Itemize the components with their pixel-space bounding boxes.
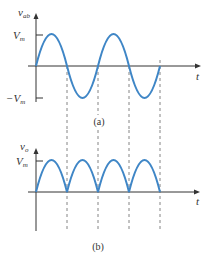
- chart-b-caption: (b): [92, 241, 104, 253]
- chart-a-caption: (a): [93, 116, 104, 128]
- chart-a-x-arrow-icon: [195, 64, 201, 69]
- chart-b-rectified-wave: [36, 160, 160, 192]
- chart-b-vm-label: Vm: [16, 155, 28, 169]
- chart-a: vab Vm −Vm t (a): [6, 6, 201, 130]
- chart-b: vo Vm t (b): [16, 130, 200, 253]
- rectifier-waveform-figure: vab Vm −Vm t (a) vo Vm t (b): [0, 0, 211, 257]
- chart-a-neg-vm-label: −Vm: [6, 92, 25, 106]
- svg-text:vab: vab: [18, 6, 30, 20]
- chart-a-xlabel: t: [196, 70, 200, 82]
- chart-a-vm-label: Vm: [13, 29, 25, 43]
- chart-a-dashed-lines: [67, 60, 160, 130]
- chart-b-y-arrow-icon: [34, 148, 39, 154]
- chart-b-dashed-lines: [67, 130, 160, 231]
- chart-b-x-arrow-icon: [194, 190, 200, 195]
- chart-b-ylabel: vo: [20, 140, 29, 154]
- chart-b-xlabel: t: [196, 195, 200, 207]
- chart-a-y-arrow-icon: [34, 13, 39, 19]
